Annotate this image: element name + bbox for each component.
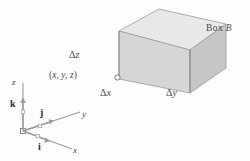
box-name-word: Box	[206, 23, 223, 33]
delta-z-label: Δz	[69, 50, 79, 60]
basis-vector-i-shaft	[23, 131, 46, 140]
coord-close-paren: )	[74, 70, 77, 80]
basis-vector-k-label: k	[10, 99, 16, 109]
basis-vector-j-shaft	[23, 122, 50, 131]
box-name-letter: B	[226, 23, 232, 33]
basis-vector-k-head	[20, 97, 26, 103]
delta-x-label: Δx	[100, 88, 111, 98]
box-name-label: Box B	[206, 24, 232, 34]
delta-y-label: Δy	[166, 88, 177, 98]
corner-point-label: (x, y, z)	[49, 71, 77, 81]
basis-vector-k-tick	[21, 110, 24, 113]
box-diagram-figure: Box B Δz Δx Δy (x, y, z) z y x k j i	[0, 0, 250, 161]
axis-z-label: z	[12, 78, 16, 87]
delta-z-variable: z	[75, 49, 79, 60]
basis-vector-i-tick	[36, 134, 39, 137]
axis-x-label: x	[73, 146, 77, 155]
basis-vector-j-head	[49, 119, 54, 124]
basis-vector-i-label: i	[38, 142, 41, 152]
corner-point-marker	[115, 75, 120, 80]
delta-x-variable: x	[106, 87, 110, 98]
basis-vector-j-label: j	[40, 108, 43, 118]
delta-y-variable: y	[172, 87, 176, 98]
axis-y-label: y	[82, 110, 86, 119]
basis-vector-j-tick	[38, 124, 41, 127]
